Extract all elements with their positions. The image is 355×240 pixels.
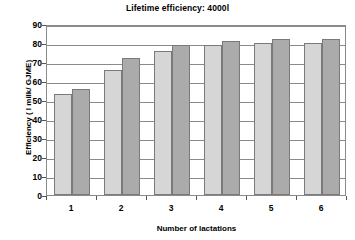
x-axis-tick-label: 3 [156, 203, 186, 213]
y-axis-tick-label: 10 [14, 173, 42, 182]
y-axis-tick-label: 90 [14, 21, 42, 30]
y-axis-tick-mark [42, 44, 46, 45]
y-axis-tick-label: 80 [14, 40, 42, 49]
bar [104, 70, 122, 195]
y-axis-tick-mark [42, 139, 46, 140]
y-axis-title: Efficiency ( l milk/ GJME) [24, 28, 33, 188]
gridline [47, 159, 345, 160]
x-axis-tick-mark [146, 196, 147, 200]
x-axis-tick-mark [196, 196, 197, 200]
plot-area [46, 25, 346, 196]
x-axis-tick-label: 5 [256, 203, 286, 213]
y-axis-tick-label: 40 [14, 116, 42, 125]
bar [222, 41, 240, 195]
y-axis-tick-mark [42, 120, 46, 121]
y-axis-tick-mark [42, 63, 46, 64]
y-axis-tick-label: 20 [14, 154, 42, 163]
gridline [47, 121, 345, 122]
bar [72, 89, 90, 195]
gridline [47, 140, 345, 141]
x-axis-tick-mark [96, 196, 97, 200]
y-axis-tick-mark [42, 82, 46, 83]
x-axis-tick-label: 1 [56, 203, 86, 213]
y-axis-tick-mark [42, 158, 46, 159]
x-axis-tick-mark [246, 196, 247, 200]
y-axis-tick-mark [42, 101, 46, 102]
x-axis-tick-mark [346, 196, 347, 200]
x-axis-title: Number of lactations [38, 224, 355, 233]
y-axis-tick-label: 0 [14, 192, 42, 201]
bar [322, 39, 340, 195]
gridline [47, 83, 345, 84]
bar [54, 94, 72, 195]
x-axis-tick-mark [46, 196, 47, 200]
bar [254, 43, 272, 195]
y-axis-tick-mark [42, 177, 46, 178]
bar [272, 39, 290, 195]
x-axis-tick-label: 4 [206, 203, 236, 213]
y-axis-tick-label: 60 [14, 78, 42, 87]
bar [122, 58, 140, 195]
x-axis-tick-label: 6 [306, 203, 336, 213]
y-axis-tick-mark [42, 25, 46, 26]
y-axis-tick-label: 50 [14, 97, 42, 106]
gridline [47, 178, 345, 179]
x-axis-tick-mark [296, 196, 297, 200]
bar [204, 45, 222, 195]
gridline [47, 102, 345, 103]
gridline [47, 26, 345, 27]
y-axis-tick-label: 70 [14, 59, 42, 68]
chart-title: Lifetime efficiency: 4000l [0, 3, 355, 13]
bar [154, 51, 172, 195]
bar [172, 45, 190, 195]
y-axis-tick-label: 30 [14, 135, 42, 144]
gridline [47, 64, 345, 65]
x-axis-tick-label: 2 [106, 203, 136, 213]
gridline [47, 45, 345, 46]
bar-chart: Lifetime efficiency: 4000l Efficiency ( … [0, 0, 355, 240]
bar [304, 43, 322, 195]
